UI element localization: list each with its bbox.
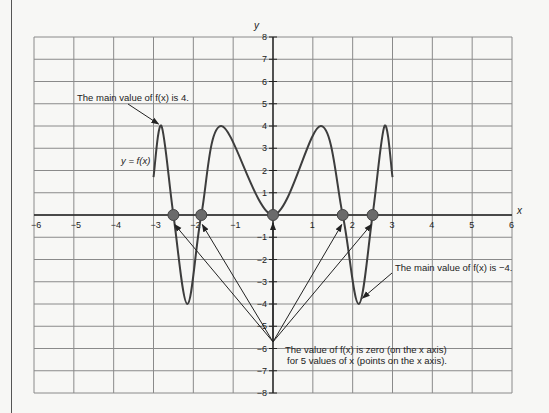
x-tick-label: 1: [310, 220, 315, 230]
chart-figure: −6−5−4−3−2−112345687654321−1−2−3−4−5−6−7…: [0, 0, 549, 413]
y-tick-label: −6: [257, 344, 267, 354]
y-tick-label: 8: [262, 32, 267, 42]
y-tick-label: 5: [262, 99, 267, 109]
x-tick-label: −6: [31, 220, 41, 230]
x-tick-label: −3: [151, 220, 161, 230]
x-tick-label: −1: [230, 220, 240, 230]
y-tick-label: −7: [257, 366, 267, 376]
y-tick-label: −8: [257, 388, 267, 398]
function-graph: −6−5−4−3−2−112345687654321−1−2−3−4−5−6−7…: [0, 0, 549, 413]
annotation-min-text: The main value of f(x) is −4.: [395, 262, 512, 273]
annotation-zeros-line1: The value of f(x) is zero (on the x axis…: [285, 344, 447, 355]
zero-point: [168, 210, 179, 221]
y-tick-label: 7: [262, 54, 267, 64]
y-tick-label: −4: [257, 299, 267, 309]
page-margin-rule: [11, 0, 12, 413]
y-tick-label: −2: [257, 255, 267, 265]
y-tick-label: 1: [262, 188, 267, 198]
x-tick-label: 2: [350, 220, 355, 230]
curve-label: y = f(x): [120, 155, 150, 166]
y-tick-label: 3: [262, 143, 267, 153]
x-tick-label: −4: [111, 220, 121, 230]
curve-label-text: y = f(x): [120, 155, 150, 166]
annotation-min: The main value of f(x) is −4.: [395, 262, 512, 273]
y-tick-label: 6: [262, 77, 267, 87]
annotation-zeros-text-1: The value of f(x) is zero (on the x axis…: [285, 344, 447, 355]
x-tick-label: 5: [469, 220, 474, 230]
y-tick-label: 2: [262, 166, 267, 176]
y-axis-label-text: y: [253, 20, 260, 31]
y-axis-label: y: [253, 20, 260, 31]
x-axis-label: x: [516, 205, 523, 216]
zero-point: [367, 210, 378, 221]
x-tick-label: −5: [71, 220, 81, 230]
zero-arrow: [273, 225, 342, 342]
annotation-max: The main value of f(x) is 4.: [77, 92, 189, 103]
x-tick-label: 3: [390, 220, 395, 230]
annotation-zeros-line2: for 5 values of x (points on the x axis)…: [287, 355, 447, 366]
zero-point: [268, 210, 279, 221]
zero-points: [168, 210, 378, 221]
y-tick-label: 4: [262, 121, 267, 131]
x-tick-label: 6: [509, 220, 514, 230]
zero-point: [196, 210, 207, 221]
annotation-max-text: The main value of f(x) is 4.: [77, 92, 189, 103]
y-tick-label: −1: [257, 232, 267, 242]
y-tick-label: −3: [257, 277, 267, 287]
x-axis-label-text: x: [516, 205, 523, 216]
zero-point: [337, 210, 348, 221]
annotation-zeros-text-2: for 5 values of x (points on the x axis)…: [287, 355, 447, 366]
zero-arrow: [273, 225, 371, 342]
x-tick-label: 4: [429, 220, 434, 230]
min-arrow: [363, 273, 392, 298]
